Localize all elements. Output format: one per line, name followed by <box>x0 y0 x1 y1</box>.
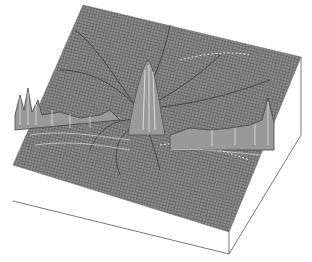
surface-plot-3d <box>0 0 312 262</box>
